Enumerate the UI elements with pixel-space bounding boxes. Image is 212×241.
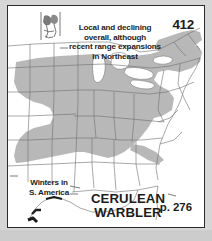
card-bottom-strip: [0, 230, 212, 241]
map-frame: Local and declining overall, although re…: [7, 5, 205, 228]
status-annotation-line-3: recent range expansions: [66, 42, 164, 52]
inset-range-sketch-icon: [41, 12, 60, 40]
winter-range-line-2: S. America: [20, 188, 78, 198]
status-annotation-line-1: Local and declining: [66, 23, 164, 33]
status-annotation-line-2: overall, although: [66, 33, 164, 43]
winter-range-line-1: Winters in: [20, 178, 78, 188]
field-guide-range-map-card: Local and declining overall, although re…: [0, 0, 212, 241]
page-number-badge: 412: [172, 17, 194, 32]
winter-range-annotation: Winters in S. America: [20, 178, 78, 198]
status-annotation-line-4: in Northeast: [66, 52, 164, 62]
page-reference-label: p. 276: [160, 201, 192, 213]
status-annotation: Local and declining overall, although re…: [66, 23, 164, 61]
